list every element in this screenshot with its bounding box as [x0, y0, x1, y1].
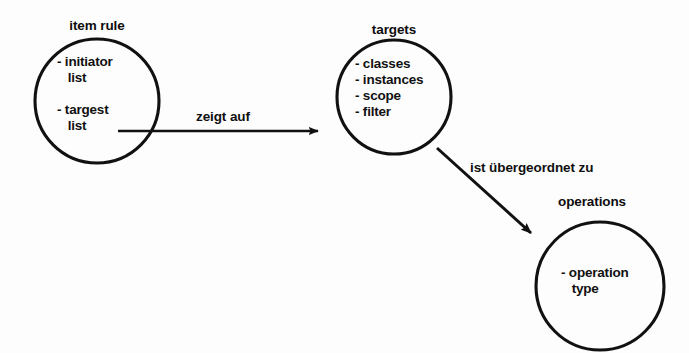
node-title-item-rule: item rule	[37, 18, 157, 33]
node-items-item-rule: - initiator list - targest list	[57, 54, 113, 134]
node-items-targets: - classes - instances - scope - filter	[355, 56, 423, 120]
node-title-targets: targets	[334, 22, 454, 37]
node-title-operations: operations	[532, 194, 652, 209]
diagram-canvas: item rule - initiator list - targest lis…	[0, 0, 689, 353]
node-items-operations: - operation type	[561, 265, 629, 297]
diagram-graphics	[0, 0, 689, 353]
edge-label-zeigt-auf: zeigt auf	[196, 109, 250, 124]
edge-label-ist-uebergeordnet-zu: ist übergeordnet zu	[470, 160, 593, 175]
